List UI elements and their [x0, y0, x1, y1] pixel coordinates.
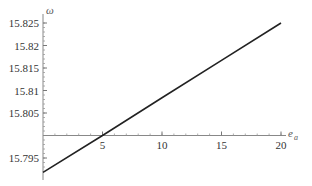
y-axis-label: ω [46, 4, 54, 16]
y-tick-label: 15.825 [9, 17, 40, 29]
x-tick-label: 5 [100, 139, 106, 151]
svg-text:e: e [288, 127, 293, 139]
line-chart: 15.79515.80515.8115.81515.8215.825 51015… [0, 0, 312, 186]
x-axis: 5101520 [43, 132, 287, 151]
x-axis-label: e a [288, 127, 298, 142]
x-tick-label: 15 [216, 139, 228, 151]
y-axis: 15.79515.80515.8115.81515.8215.825 [9, 14, 47, 180]
y-tick-label: 15.81 [14, 85, 39, 97]
x-tick-label: 20 [276, 139, 288, 151]
x-tick-label: 10 [157, 139, 169, 151]
y-tick-label: 15.795 [9, 152, 40, 164]
svg-text:a: a [294, 133, 298, 142]
y-tick-label: 15.805 [9, 107, 40, 119]
y-tick-label: 15.82 [14, 40, 39, 52]
y-tick-label: 15.815 [9, 62, 40, 74]
